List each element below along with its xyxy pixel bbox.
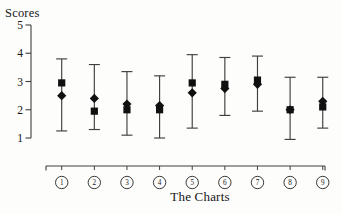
x-category-label: 2 <box>93 179 97 187</box>
x-axis-title: The Charts <box>120 189 280 205</box>
square-marker <box>156 106 163 113</box>
square-marker <box>221 81 228 88</box>
chart-canvas: Scores 54321123456789 The Charts <box>0 0 342 214</box>
x-category-label: 6 <box>223 179 227 187</box>
diamond-marker <box>188 88 197 97</box>
x-category-label: 1 <box>60 179 64 187</box>
y-axis-tick-label: 2 <box>17 104 23 116</box>
y-axis-tick-label: 3 <box>17 76 23 88</box>
square-marker <box>189 79 196 86</box>
y-axis-tick-label: 5 <box>17 19 23 31</box>
y-axis-tick-label: 4 <box>17 47 23 59</box>
diamond-marker <box>90 94 99 103</box>
x-category-label: 7 <box>256 179 260 187</box>
square-marker <box>319 103 326 110</box>
y-axis-tick-label: 1 <box>17 132 23 144</box>
square-marker <box>123 106 130 113</box>
x-category-label: 5 <box>190 179 194 187</box>
x-category-label: 8 <box>288 179 292 187</box>
x-category-label: 3 <box>125 179 129 187</box>
square-marker <box>287 106 294 113</box>
square-marker <box>254 76 261 83</box>
diamond-marker <box>57 91 66 100</box>
square-marker <box>91 108 98 115</box>
x-category-label: 9 <box>321 179 325 187</box>
square-marker <box>58 79 65 86</box>
plot-area: 54321123456789 <box>0 0 342 214</box>
x-category-label: 4 <box>158 179 162 187</box>
